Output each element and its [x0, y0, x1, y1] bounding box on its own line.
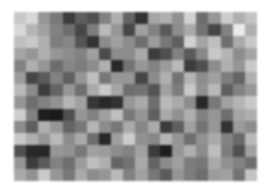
noise-cell [38, 60, 50, 72]
noise-cell [87, 48, 99, 60]
noise-cell [26, 48, 38, 60]
noise-cell [99, 109, 111, 121]
noise-cell [245, 157, 257, 169]
noise-cell [111, 109, 123, 121]
noise-cell [208, 12, 220, 24]
noise-cell [99, 72, 111, 84]
noise-cell [50, 133, 62, 145]
noise-cell [148, 36, 160, 48]
noise-cell [50, 169, 62, 181]
noise-cell [245, 169, 257, 181]
noise-cell [63, 133, 75, 145]
noise-cell [208, 36, 220, 48]
noise-cell [196, 36, 208, 48]
noise-cell [87, 157, 99, 169]
noise-cell [123, 12, 135, 24]
noise-cell [63, 36, 75, 48]
noise-cell [111, 169, 123, 181]
noise-cell [221, 157, 233, 169]
noise-cell [14, 145, 26, 157]
noise-cell [63, 169, 75, 181]
noise-cell [111, 24, 123, 36]
noise-cell [38, 121, 50, 133]
noise-cell [87, 109, 99, 121]
noise-cell [14, 169, 26, 181]
noise-cell [75, 169, 87, 181]
noise-cell [26, 133, 38, 145]
noise-cell [111, 36, 123, 48]
noise-cell [50, 145, 62, 157]
noise-cell [123, 133, 135, 145]
noise-cell [148, 48, 160, 60]
noise-cell [14, 133, 26, 145]
noise-cell [184, 84, 196, 96]
noise-cell [148, 12, 160, 24]
noise-cell [208, 72, 220, 84]
noise-cell [135, 12, 147, 24]
noise-cell [184, 12, 196, 24]
noise-cell [172, 24, 184, 36]
noise-cell [99, 157, 111, 169]
noise-cell [111, 96, 123, 108]
noise-cell [221, 48, 233, 60]
noise-cell [160, 24, 172, 36]
noise-cell [63, 157, 75, 169]
noise-cell [63, 145, 75, 157]
noise-cell [50, 121, 62, 133]
noise-cell [135, 145, 147, 157]
noise-cell [233, 121, 245, 133]
noise-cell [135, 133, 147, 145]
noise-cell [63, 72, 75, 84]
noise-cell [221, 24, 233, 36]
noise-cell [160, 145, 172, 157]
noise-cell [135, 84, 147, 96]
noise-cell [26, 24, 38, 36]
noise-cell [111, 60, 123, 72]
noise-cell [38, 24, 50, 36]
noise-cell [233, 84, 245, 96]
noise-cell [172, 145, 184, 157]
noise-cell [111, 84, 123, 96]
noise-cell [233, 169, 245, 181]
noise-cell [38, 84, 50, 96]
noise-cell [196, 96, 208, 108]
noise-cell [221, 96, 233, 108]
noise-cell [208, 121, 220, 133]
noise-cell [111, 72, 123, 84]
noise-cell [184, 169, 196, 181]
noise-cell [245, 24, 257, 36]
noise-cell [208, 24, 220, 36]
noise-cell [87, 60, 99, 72]
noise-cell [208, 84, 220, 96]
noise-cell [63, 109, 75, 121]
noise-cell [221, 12, 233, 24]
noise-cell [63, 48, 75, 60]
noise-cell [99, 36, 111, 48]
noise-cell [123, 24, 135, 36]
noise-cell [172, 60, 184, 72]
noise-cell [135, 36, 147, 48]
noise-cell [75, 36, 87, 48]
noise-cell [221, 36, 233, 48]
noise-cell [26, 36, 38, 48]
noise-cell [99, 60, 111, 72]
noise-cell [123, 84, 135, 96]
noise-cell [87, 36, 99, 48]
noise-cell [184, 121, 196, 133]
noise-cell [75, 24, 87, 36]
noise-cell [14, 36, 26, 48]
noise-cell [99, 48, 111, 60]
noise-cell [245, 84, 257, 96]
noise-cell [184, 48, 196, 60]
noise-cell [63, 24, 75, 36]
noise-cell [208, 96, 220, 108]
noise-cell [245, 133, 257, 145]
noise-cell [245, 96, 257, 108]
noise-cell [50, 36, 62, 48]
noise-cell [63, 12, 75, 24]
noise-cell [14, 96, 26, 108]
noise-cell [75, 157, 87, 169]
noise-cell [87, 133, 99, 145]
noise-cell [148, 109, 160, 121]
noise-cell [184, 72, 196, 84]
